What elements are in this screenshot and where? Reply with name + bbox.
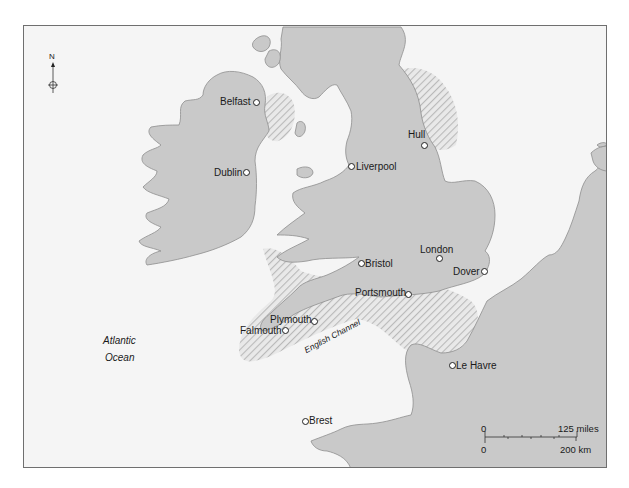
scale-top-start: 0 [481,424,486,434]
scale-bottom-start: 0 [481,445,486,455]
scottish-island-1 [252,36,270,52]
compass-rose [48,62,58,93]
city-marker-london [436,255,443,262]
city-marker-belfast [253,99,260,106]
city-label-brest: Brest [309,416,332,426]
city-label-portsmouth: Portsmouth [355,288,406,298]
city-marker-dublin [243,169,250,176]
map-frame [23,25,607,468]
city-marker-le-havre [449,362,456,369]
compass-north-label: N [49,52,55,61]
map-canvas [24,26,607,468]
city-label-liverpool: Liverpool [356,162,397,172]
city-label-bristol: Bristol [365,259,393,269]
city-label-hull: Hull [408,130,425,140]
scottish-island-2 [265,50,280,68]
city-label-london: London [420,245,453,255]
city-marker-hull [421,142,428,149]
land [139,27,607,468]
city-marker-liverpool [348,163,355,170]
city-marker-dover [481,268,488,275]
scale-bottom-end: 200 km [560,445,591,455]
scale-top-end: 125 miles [558,424,599,434]
city-label-falmouth: Falmouth [240,326,282,336]
city-label-dublin: Dublin [214,168,242,178]
ocean-label-line1: Atlantic [103,336,136,346]
city-marker-brest [302,418,309,425]
city-label-belfast: Belfast [220,97,251,107]
dutch-coast [591,146,607,171]
north-arrow-icon [51,62,55,67]
city-label-le-havre: Le Havre [456,361,497,371]
city-label-plymouth: Plymouth [270,315,312,325]
anglesey [297,167,313,178]
ocean-label-line2: Ocean [105,353,134,363]
isle-of-man [295,121,305,136]
city-marker-falmouth [282,327,289,334]
city-marker-bristol [358,260,365,267]
city-label-dover: Dover [453,267,480,277]
city-marker-plymouth [311,318,318,325]
